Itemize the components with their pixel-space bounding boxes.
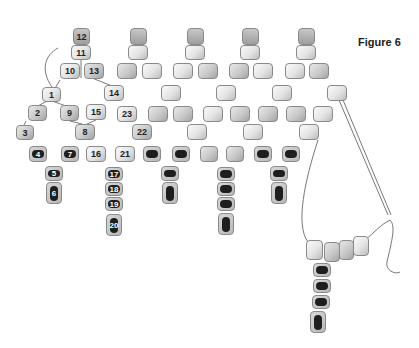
bead-9: 9 <box>60 105 79 121</box>
bead <box>216 85 236 101</box>
bead-hole <box>285 150 296 158</box>
bead-hole <box>222 217 230 232</box>
bead <box>313 279 331 293</box>
bead-1: 1 <box>42 87 61 102</box>
bead <box>173 63 193 79</box>
bead-11: 11 <box>71 45 91 60</box>
bead-hole: 19 <box>108 200 119 207</box>
bead-17: 17 <box>105 167 123 181</box>
bead-hole: 5 <box>48 170 59 178</box>
bead-16: 16 <box>86 146 106 162</box>
bead-number: 15 <box>91 107 101 117</box>
bead-23: 23 <box>117 106 137 122</box>
bead <box>286 106 306 122</box>
bead <box>185 45 205 60</box>
bead <box>217 197 235 211</box>
figure-title: Figure 6 <box>358 36 401 48</box>
bead <box>203 106 223 122</box>
bead-number: 3 <box>22 128 27 138</box>
bead-hole <box>175 150 186 158</box>
bead <box>229 63 249 79</box>
bead-4: 4 <box>29 146 47 162</box>
bead <box>187 28 204 45</box>
bead <box>148 106 168 122</box>
bead <box>306 240 323 260</box>
bead-hole <box>257 150 268 158</box>
bead <box>253 63 273 79</box>
bead-8: 8 <box>75 124 95 140</box>
bead <box>282 146 300 162</box>
bead <box>217 167 235 181</box>
bead <box>230 106 250 122</box>
bead-hole: 18 <box>108 185 119 192</box>
bead-hole <box>314 315 322 330</box>
bead <box>309 63 329 79</box>
bead-number: 2 <box>35 108 40 118</box>
bead-3: 3 <box>16 125 34 140</box>
bead <box>313 106 333 122</box>
bead <box>313 263 331 277</box>
bead <box>243 124 263 140</box>
bead <box>172 146 190 162</box>
bead-number: 13 <box>89 66 99 76</box>
bead <box>217 182 235 196</box>
bead <box>143 146 161 162</box>
bead-hole <box>220 200 231 207</box>
bead-number: 8 <box>82 127 87 137</box>
bead-number: 16 <box>91 149 101 159</box>
bead-20: 20 <box>106 214 122 236</box>
bead <box>240 45 260 60</box>
bead-hole <box>315 298 326 305</box>
bead-number: 9 <box>67 108 72 118</box>
bead <box>198 63 218 79</box>
bead-hole <box>316 266 327 273</box>
bead <box>161 85 181 101</box>
thread-line <box>339 100 388 215</box>
bead-13: 13 <box>84 63 104 79</box>
thread-line <box>365 220 400 273</box>
bead <box>161 166 179 181</box>
bead-number: 12 <box>76 32 86 42</box>
bead <box>312 295 330 309</box>
bead-hole: 6 <box>50 186 58 201</box>
bead <box>162 182 178 204</box>
bead-12: 12 <box>73 28 90 45</box>
bead-number: 21 <box>120 149 130 159</box>
bead-5: 5 <box>45 166 63 181</box>
bead-hole: 17 <box>108 170 119 177</box>
bead <box>271 182 287 204</box>
bead-10: 10 <box>60 63 80 79</box>
bead <box>173 106 193 122</box>
bead-hole <box>166 186 174 201</box>
bead <box>187 124 207 140</box>
bead-6: 6 <box>46 182 62 204</box>
bead <box>258 106 278 122</box>
bead-number: 1 <box>49 90 54 100</box>
bead <box>142 63 162 79</box>
bead-hole: 7 <box>64 150 75 158</box>
bead <box>285 63 305 79</box>
bead <box>218 213 234 235</box>
bead <box>296 45 316 60</box>
bead-15: 15 <box>86 104 106 120</box>
bead <box>272 85 292 101</box>
bead <box>324 242 340 262</box>
bead-hole <box>220 170 231 177</box>
bead-hole <box>220 185 231 192</box>
bead-18: 18 <box>105 182 123 196</box>
bead-19: 19 <box>105 197 123 211</box>
bead-number: 23 <box>122 109 132 119</box>
thread-line <box>302 140 318 242</box>
beading-diagram: 1211101311429152338224716215617181920 Fi… <box>0 0 419 348</box>
bead <box>353 236 369 256</box>
bead <box>310 311 326 333</box>
thread-line <box>45 48 58 87</box>
bead-2: 2 <box>28 105 47 121</box>
bead <box>242 28 259 45</box>
bead-21: 21 <box>115 146 135 162</box>
bead <box>128 45 148 60</box>
bead-hole: 4 <box>32 150 43 158</box>
bead-number: 22 <box>137 127 147 137</box>
bead-hole <box>164 170 175 178</box>
bead <box>254 146 272 162</box>
